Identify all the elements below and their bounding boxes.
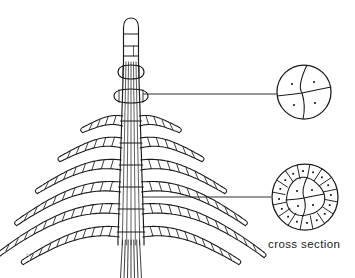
- nucleus-dot: [330, 194, 332, 196]
- cross-section-label: cross section: [268, 238, 340, 250]
- nucleus-dot: [314, 102, 316, 104]
- nucleus-dot: [278, 198, 280, 200]
- nucleus-dot: [312, 171, 314, 173]
- nucleus-dot: [291, 83, 293, 85]
- nucleus-dot: [306, 222, 308, 224]
- algal-thallus-diagram: [0, 0, 355, 278]
- nucleus-dot: [321, 176, 323, 178]
- scan-speck: [26, 253, 29, 256]
- nucleus-dot: [311, 189, 313, 191]
- nucleus-dot: [327, 184, 329, 186]
- nucleus-dot: [324, 213, 326, 215]
- cross-section-lower: [272, 164, 338, 230]
- nucleus-dot: [293, 104, 295, 106]
- inner-cell-ring: [287, 177, 325, 215]
- cross-section-outline: [272, 164, 338, 230]
- nucleus-dot: [313, 81, 315, 83]
- nucleus-dot: [281, 208, 283, 210]
- nucleus-dot: [312, 204, 314, 206]
- cross-section-upper: [277, 65, 331, 119]
- nucleus-dot: [296, 221, 298, 223]
- nucleus-dot: [297, 205, 299, 207]
- nucleus-dot: [284, 179, 286, 181]
- nucleus-dot: [287, 216, 289, 218]
- nucleus-dot: [292, 173, 294, 175]
- nucleus-dot: [279, 188, 281, 190]
- nucleus-dot: [329, 204, 331, 206]
- nucleus-dot: [302, 170, 304, 172]
- nucleus-dot: [296, 190, 298, 192]
- nucleus-dot: [316, 219, 318, 221]
